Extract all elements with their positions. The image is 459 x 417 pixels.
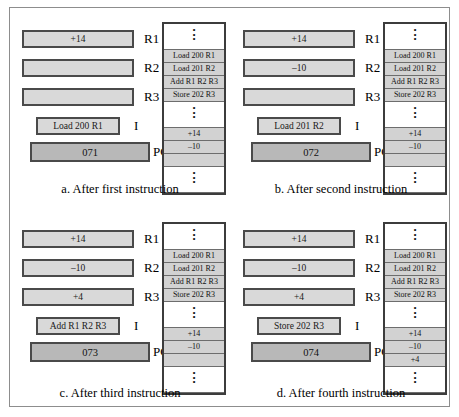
memory-cell-073[interactable]: Store 202 R3073 <box>164 89 224 102</box>
ellipsis-dots: ••• <box>164 371 224 385</box>
register-row-r3: +4R3 <box>243 288 375 310</box>
memory-cell-201[interactable]: –10201 <box>164 141 224 154</box>
ellipsis-dot: • <box>164 237 224 242</box>
panel-a: +14R1R2R3Load 200 R1I071PC•••Load 200 R1… <box>10 8 230 208</box>
ellipsis-dots: ••• <box>164 306 224 320</box>
memory-cell-071[interactable]: Load 201 R2071 <box>164 63 224 76</box>
memory-cell-202[interactable]: 202 <box>164 154 224 167</box>
register-label-instruction: I <box>355 116 359 136</box>
ellipsis-dots: ••• <box>164 228 224 242</box>
memory-cell-200[interactable]: +14200 <box>385 328 445 341</box>
ellipsis-dots: ••• <box>164 28 224 42</box>
register-row-instruction: Add R1 R2 R3I <box>22 317 154 339</box>
register-box-r2[interactable]: –10 <box>243 259 355 277</box>
ellipsis-dots: ••• <box>385 28 445 42</box>
memory-cell-200[interactable]: +14200 <box>164 328 224 341</box>
register-box-r2[interactable] <box>22 59 134 77</box>
panel-caption-d: d. After fourth instruction <box>231 386 451 401</box>
register-row-r1: +14R1 <box>22 230 154 252</box>
register-label-r2: R2 <box>144 258 159 278</box>
register-row-r3: +4R3 <box>22 288 154 310</box>
register-box-r3[interactable] <box>22 88 134 106</box>
register-label-r3: R3 <box>144 287 159 307</box>
memory-cell-071[interactable]: Load 201 R2071 <box>164 263 224 276</box>
memory-cell-070[interactable]: Load 200 R1070 <box>385 50 445 63</box>
ellipsis-dot: • <box>164 37 224 42</box>
memory-cell-201[interactable]: –10201 <box>164 341 224 354</box>
register-box-instruction[interactable]: Store 202 R3 <box>257 317 341 335</box>
register-label-r1: R1 <box>144 229 159 249</box>
memory-cell-070[interactable]: Load 200 R1070 <box>164 250 224 263</box>
register-box-r3[interactable]: +4 <box>243 288 355 306</box>
program-counter-row: 071PC <box>22 142 172 166</box>
memory-cell-073[interactable]: Store 202 R3073 <box>385 89 445 102</box>
memory-cell-072[interactable]: Add R1 R2 R3072 <box>385 276 445 289</box>
memory-cell-071[interactable]: Load 201 R2071 <box>385 63 445 76</box>
memory-cell-072[interactable]: Add R1 R2 R3072 <box>164 76 224 89</box>
memory-cell-071[interactable]: Load 201 R2071 <box>385 263 445 276</box>
register-box-r1[interactable]: +14 <box>243 230 355 248</box>
register-file: +14R1–10R2+4R3Store 202 R3I <box>243 230 375 346</box>
register-row-r2: –10R2 <box>243 59 375 81</box>
ellipsis-dots: ••• <box>164 106 224 120</box>
memory-column: •••Load 200 R1070Load 201 R2071Add R1 R2… <box>383 22 447 195</box>
program-counter-row: 072PC <box>243 142 393 166</box>
register-box-instruction[interactable]: Load 201 R2 <box>257 117 341 135</box>
memory-cell-201[interactable]: –10201 <box>385 141 445 154</box>
memory-cell-072[interactable]: Add R1 R2 R3072 <box>385 76 445 89</box>
memory-cell-200[interactable]: +14200 <box>385 128 445 141</box>
memory-cell-072[interactable]: Add R1 R2 R3072 <box>164 276 224 289</box>
memory-ellipsis-top: ••• <box>385 24 445 50</box>
register-box-r1[interactable]: +14 <box>22 230 134 248</box>
register-label-instruction: I <box>134 116 138 136</box>
memory-cell-202[interactable]: 202 <box>164 354 224 367</box>
panel-c: +14R1–10R2+4R3Add R1 R2 R3I073PC•••Load … <box>10 208 230 408</box>
memory-cell-070[interactable]: Load 200 R1070 <box>164 50 224 63</box>
register-file: +14R1–10R2R3Load 201 R2I <box>243 30 375 146</box>
register-label-r3: R3 <box>144 87 159 107</box>
program-counter-box[interactable]: 071 <box>30 142 150 162</box>
memory-cell-073[interactable]: Store 202 R3073 <box>164 289 224 302</box>
memory-column: •••Load 200 R1070Load 201 R2071Add R1 R2… <box>162 22 226 195</box>
register-file: +14R1R2R3Load 200 R1I <box>22 30 154 146</box>
program-counter-row: 073PC <box>22 342 172 366</box>
register-box-instruction[interactable]: Load 200 R1 <box>36 117 120 135</box>
register-box-r3[interactable] <box>243 88 355 106</box>
memory-cell-201[interactable]: –10201 <box>385 341 445 354</box>
register-box-r1[interactable]: +14 <box>243 30 355 48</box>
panel-caption-c: c. After third instruction <box>10 386 230 401</box>
memory-ellipsis-top: ••• <box>164 24 224 50</box>
ellipsis-dots: ••• <box>385 371 445 385</box>
ellipsis-dot: • <box>164 315 224 320</box>
register-box-r2[interactable]: –10 <box>22 259 134 277</box>
register-box-r3[interactable]: +4 <box>22 288 134 306</box>
register-row-r1: +14R1 <box>243 230 375 252</box>
memory-cell-073[interactable]: Store 202 R3073 <box>385 289 445 302</box>
register-row-r1: +14R1 <box>22 30 154 52</box>
ellipsis-dots: ••• <box>385 228 445 242</box>
memory-column: •••Load 200 R1070Load 201 R2071Add R1 R2… <box>162 222 226 395</box>
register-row-instruction: Store 202 R3I <box>243 317 375 339</box>
register-label-r1: R1 <box>144 29 159 49</box>
register-box-r1[interactable]: +14 <box>22 30 134 48</box>
register-label-r2: R2 <box>144 58 159 78</box>
panel-caption-a: a. After first instruction <box>10 182 230 197</box>
ellipsis-dot: • <box>385 380 445 385</box>
program-counter-box[interactable]: 074 <box>251 342 371 362</box>
panel-b: +14R1–10R2R3Load 201 R2I072PC•••Load 200… <box>231 8 451 208</box>
register-label-instruction: I <box>355 316 359 336</box>
register-box-instruction[interactable]: Add R1 R2 R3 <box>36 317 120 335</box>
memory-column: •••Load 200 R1070Load 201 R2071Add R1 R2… <box>383 222 447 395</box>
register-row-instruction: Load 201 R2I <box>243 117 375 139</box>
register-box-r2[interactable]: –10 <box>243 59 355 77</box>
program-counter-box[interactable]: 072 <box>251 142 371 162</box>
memory-cell-200[interactable]: +14200 <box>164 128 224 141</box>
register-label-r2: R2 <box>365 258 380 278</box>
memory-cell-070[interactable]: Load 200 R1070 <box>385 250 445 263</box>
register-label-r1: R1 <box>365 229 380 249</box>
memory-cell-202[interactable]: 202 <box>385 154 445 167</box>
memory-ellipsis-middle: ••• <box>164 302 224 328</box>
ellipsis-dots: ••• <box>385 106 445 120</box>
memory-cell-202[interactable]: +4202 <box>385 354 445 367</box>
program-counter-box[interactable]: 073 <box>30 342 150 362</box>
